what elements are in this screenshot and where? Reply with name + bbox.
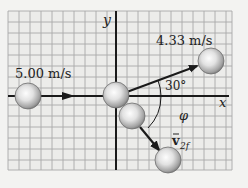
collision-diagram: 5.00 m/s 4.33 m/s 30° φ y x v 2f	[0, 0, 248, 188]
y-axis-label: y	[102, 12, 112, 28]
incoming-speed-label: 5.00 m/s	[15, 66, 71, 81]
target-ball-initial	[103, 82, 129, 108]
target-ball-after	[119, 103, 145, 129]
incoming-ball	[15, 83, 41, 109]
x-axis-label: x	[219, 95, 227, 110]
angle-30-label: 30°	[165, 79, 186, 93]
velocity-2-subscript: 2f	[179, 141, 191, 151]
ball-2-final	[155, 147, 181, 173]
velocity-2-symbol: v	[171, 133, 180, 148]
ball-1-final	[198, 48, 224, 74]
outgoing-speed-1-label: 4.33 m/s	[156, 33, 212, 48]
angle-phi-label: φ	[179, 108, 189, 123]
